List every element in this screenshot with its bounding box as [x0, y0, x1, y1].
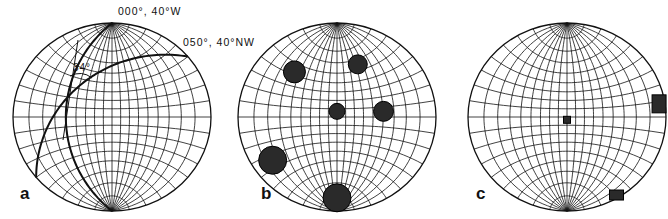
panel-b-markers — [259, 55, 394, 212]
density-marker-center — [329, 103, 345, 119]
panel-letter-c: c — [476, 184, 485, 203]
stereonet-panel-c: c — [468, 23, 666, 211]
stereonet-figure: 000°, 40°W 050°, 40°NW 34° a b c — [0, 0, 668, 219]
density-marker-lower-right-edge — [610, 190, 624, 200]
stereonet-panel-a: 000°, 40°W 050°, 40°NW 34° a — [13, 5, 255, 211]
stereonet-panel-b: b — [238, 23, 436, 212]
panel-letter-b: b — [261, 184, 271, 203]
stereonet-grid-a — [13, 23, 211, 211]
panel-c-markers — [564, 95, 667, 200]
panel-letter-a: a — [20, 184, 30, 203]
density-marker-bottom — [323, 184, 351, 212]
plane-label-1: 000°, 40°W — [118, 5, 181, 17]
density-marker-upper-right — [348, 55, 367, 74]
density-marker-right-edge — [652, 95, 666, 113]
density-marker-center — [564, 116, 571, 123]
density-marker-upper-left — [283, 61, 305, 83]
plane-label-2: 050°, 40°NW — [183, 36, 255, 48]
angle-label: 34° — [73, 62, 91, 73]
density-marker-lower-left — [259, 146, 287, 174]
density-marker-right — [374, 101, 394, 121]
